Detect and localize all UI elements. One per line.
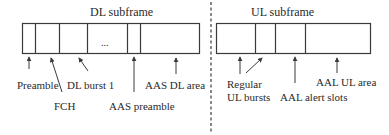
regular-label-line1: Regular [227,78,262,90]
regular-ul-arrow-2-icon [246,58,262,73]
diagram-graphics [0,0,389,135]
ul-subframe-title: UL subframe [251,6,314,18]
dl-subframe-box [23,24,200,54]
preamble-label: Preamble [17,79,59,91]
regular-label-line2: UL bursts [227,91,270,103]
ul-subframe-box [217,24,371,54]
fch-label: FCH [54,100,75,112]
frame-structure-diagram: DL subframe UL subframe ... Preamble FCH… [0,0,389,135]
aal-ul-area-label: AAL UL area [316,76,376,88]
aas-dl-area-label: AAS DL area [145,79,205,91]
aal-alert-slots-label: AAL alert slots [280,91,347,103]
dl-bursts-ellipsis: ... [101,37,109,49]
aas-preamble-label: AAS preamble [109,100,175,112]
dl-burst-arrow-icon [79,58,88,71]
dl-subframe-title: DL subframe [90,6,153,18]
dl-burst-1-label: DL burst 1 [67,79,114,91]
